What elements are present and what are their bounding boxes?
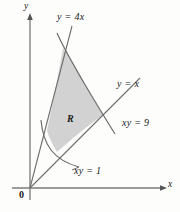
curve-label-xy-equals-9: xy = 9: [122, 118, 149, 128]
math-figure: y = 4x y = x xy = 9 xy = 1 R y x 0: [0, 0, 180, 212]
figure-canvas: [0, 0, 180, 212]
curve-label-y-equals-4x: y = 4x: [57, 12, 84, 22]
region-label-r: R: [67, 114, 74, 124]
x-axis-arrowhead-icon: [160, 185, 167, 191]
x-axis-label: x: [168, 180, 173, 190]
origin-label: 0: [19, 190, 24, 200]
curve-label-y-equals-x: y = x: [117, 79, 139, 89]
y-axis-label: y: [24, 2, 29, 12]
curve-label-xy-equals-1: xy = 1: [74, 166, 101, 176]
y-axis-arrowhead-icon: [27, 13, 33, 20]
